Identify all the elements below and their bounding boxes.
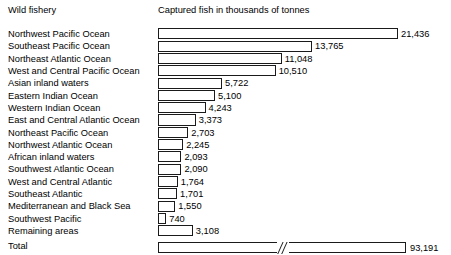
bar (158, 139, 183, 150)
bar-row: Mediterranean and Black Sea1,550 (0, 200, 451, 212)
bar-value-label: 1,550 (178, 200, 201, 212)
bar-track: 1,701 (158, 188, 451, 200)
bar (158, 114, 196, 125)
bar-row-label: East and Central Atlantic Ocean (8, 114, 140, 126)
bar-row-label: Southwest Atlantic Ocean (8, 163, 114, 175)
bar-row-label: West and Central Atlantic (8, 176, 112, 188)
bar-value-label: 13,765 (315, 40, 343, 52)
bar (158, 127, 188, 138)
bar-row-label: Southwest Pacific (8, 213, 81, 225)
bar-row: West and Central Pacific Ocean10,510 (0, 65, 451, 77)
bar-row: Northeast Pacific Ocean2,703 (0, 126, 451, 138)
bar-track: 10,510 (158, 65, 451, 77)
total-row: Total93,191 (0, 240, 451, 255)
bar-value-label: 4,243 (209, 102, 232, 114)
bar-row-label: Eastern Indian Ocean (8, 90, 98, 102)
bar-track: 2,245 (158, 139, 451, 151)
bar-row-label: Northeast Pacific Ocean (8, 127, 108, 139)
axis-break-marker (277, 241, 289, 255)
bar (158, 213, 166, 224)
bar-row: Western Indian Ocean4,243 (0, 102, 451, 114)
bar-value-label: 2,703 (191, 127, 214, 139)
bar-rows: Northwest Pacific Ocean21,436Southeast P… (0, 28, 451, 255)
bar (158, 176, 178, 187)
bar (158, 53, 282, 64)
bar (158, 164, 181, 175)
bar-track: 13,765 (158, 40, 451, 52)
bar-value-label: 11,048 (285, 53, 313, 65)
bar-value-label: 2,245 (186, 139, 209, 151)
bar-track: 11,048 (158, 53, 451, 65)
bar (158, 102, 206, 113)
bar (158, 41, 312, 52)
bar (158, 151, 181, 162)
bar-row-label: Southeast Atlantic (8, 188, 82, 200)
bar-row: Northwest Pacific Ocean21,436 (0, 28, 451, 40)
bar-value-label: 1,764 (181, 176, 204, 188)
bar-row: Eastern Indian Ocean5,100 (0, 89, 451, 101)
bar-row: Southwest Atlantic Ocean2,090 (0, 163, 451, 175)
bar-track: 3,108 (158, 225, 451, 237)
bar-row-label: Northeast Atlantic Ocean (8, 53, 111, 65)
bar-chart: Wild fishery Captured fish in thousands … (0, 0, 451, 255)
bar-track: 2,093 (158, 151, 451, 163)
bar-value-label: 2,093 (184, 151, 207, 163)
bar-track: 4,243 (158, 102, 451, 114)
bar-row: East and Central Atlantic Ocean3,373 (0, 114, 451, 126)
bar-value-label: 1,701 (180, 188, 203, 200)
bar-row-label: West and Central Pacific Ocean (8, 65, 140, 77)
bar-track: 2,703 (158, 126, 451, 138)
bar-row-label: African inland waters (8, 151, 94, 163)
bar-value-label: 10,510 (279, 65, 307, 77)
bar-track: 3,373 (158, 114, 451, 126)
bar-value-label: 3,108 (196, 225, 219, 237)
bar (158, 78, 222, 89)
total-row-label: Total (8, 240, 28, 252)
bar-value-label: 3,373 (199, 114, 222, 126)
bar-row: African inland waters2,093 (0, 151, 451, 163)
bar-row-label: Northwest Pacific Ocean (8, 28, 110, 40)
bar-row-label: Southeast Pacific Ocean (8, 40, 110, 52)
bar-row-label: Western Indian Ocean (8, 102, 100, 114)
bar-row: West and Central Atlantic1,764 (0, 176, 451, 188)
bar-value-label: 740 (169, 213, 185, 225)
bar-row-label: Mediterranean and Black Sea (8, 200, 131, 212)
bar-value-label: 2,090 (184, 163, 207, 175)
bar-track: 2,090 (158, 163, 451, 175)
bar (158, 201, 175, 212)
bar (158, 65, 276, 76)
bar-row: Southeast Pacific Ocean13,765 (0, 40, 451, 52)
bar-track: 740 (158, 212, 451, 224)
bar-track: 21,436 (158, 28, 451, 40)
bar (158, 28, 398, 39)
bar-row-label: Northwest Atlantic Ocean (8, 139, 112, 151)
chart-header: Wild fishery Captured fish in thousands … (0, 4, 451, 18)
bar (158, 90, 215, 101)
bar-row: Northeast Atlantic Ocean11,048 (0, 53, 451, 65)
bar-track: 1,550 (158, 200, 451, 212)
total-bar-track: 93,191 (158, 240, 451, 255)
bar (158, 188, 177, 199)
bar-row: Asian inland waters5,722 (0, 77, 451, 89)
bar-track: 1,764 (158, 176, 451, 188)
bar-track: 5,100 (158, 89, 451, 101)
bar-value-label: 5,722 (225, 77, 248, 89)
bar-row-label: Asian inland waters (8, 77, 89, 89)
bar-row: Southwest Pacific740 (0, 212, 451, 224)
bar-value-label: 21,436 (401, 28, 429, 40)
bar-row: Remaining areas3,108 (0, 225, 451, 237)
category-column-header: Wild fishery (8, 4, 56, 16)
value-column-header: Captured fish in thousands of tonnes (158, 4, 309, 16)
bar-row: Southeast Atlantic1,701 (0, 188, 451, 200)
bar-row-label: Remaining areas (8, 225, 78, 237)
total-value-label: 93,191 (410, 242, 438, 254)
bar-value-label: 5,100 (218, 90, 241, 102)
bar-row: Northwest Atlantic Ocean2,245 (0, 139, 451, 151)
bar (158, 225, 193, 236)
bar-track: 5,722 (158, 77, 451, 89)
